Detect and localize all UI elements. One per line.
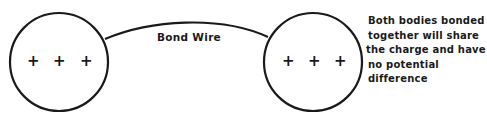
note-line: no potential <box>368 58 486 73</box>
note-line: Both bodies bonded <box>368 14 486 29</box>
note-line: difference <box>368 72 486 87</box>
note-line: together will share <box>368 29 486 44</box>
right-charge: + <box>282 52 295 70</box>
bond-wire-label: Bond Wire <box>157 31 221 43</box>
right-charge: + <box>334 52 347 70</box>
explanation-note: Both bodies bonded together will share t… <box>368 14 486 87</box>
left-charge: + <box>53 52 66 70</box>
left-charge: + <box>80 52 93 70</box>
left-charge: + <box>27 52 40 70</box>
right-charge: + <box>308 52 321 70</box>
note-line: the charge and have <box>366 43 486 58</box>
